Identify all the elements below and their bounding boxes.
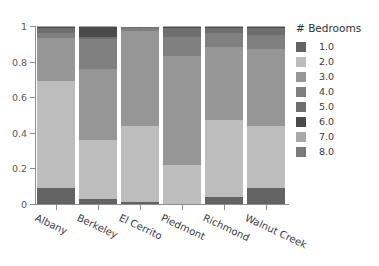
bar-el-cerrito[interactable] xyxy=(121,26,159,204)
bar-segment[interactable] xyxy=(121,126,159,203)
x-tick-mark xyxy=(98,205,99,210)
bar-segment[interactable] xyxy=(247,28,285,35)
bar-segment[interactable] xyxy=(121,202,159,204)
bar-segment[interactable] xyxy=(247,49,285,126)
legend-swatch-icon xyxy=(296,57,306,67)
x-tick-mark xyxy=(56,205,57,210)
x-tick-label: Richmond xyxy=(201,212,251,243)
y-tick-label: 0 xyxy=(21,199,27,210)
legend-item[interactable]: 8.0 xyxy=(296,144,378,159)
y-tick-mark xyxy=(30,204,35,205)
legend-swatch-icon xyxy=(296,102,306,112)
legend-label: 8.0 xyxy=(319,146,334,157)
legend-label: 4.0 xyxy=(319,86,334,97)
legend-items: 1.02.03.04.05.06.07.08.0 xyxy=(296,39,378,159)
legend-swatch-icon xyxy=(296,72,306,82)
legend-label: 7.0 xyxy=(319,131,334,142)
bar-segment[interactable] xyxy=(37,188,75,204)
x-tick-mark xyxy=(266,205,267,210)
legend-label: 6.0 xyxy=(319,116,334,127)
bar-segment[interactable] xyxy=(247,126,285,188)
bar-albany[interactable] xyxy=(37,26,75,204)
y-tick-label: 0.4 xyxy=(12,127,27,138)
bar-segment[interactable] xyxy=(163,37,201,57)
legend-item[interactable]: 7.0 xyxy=(296,129,378,144)
plot-area xyxy=(35,26,287,204)
bar-segment[interactable] xyxy=(79,27,117,37)
legend-title: # Bedrooms xyxy=(296,22,378,34)
legend-swatch-icon xyxy=(296,147,306,157)
bar-segment[interactable] xyxy=(37,38,75,81)
legend-label: 3.0 xyxy=(319,71,334,82)
x-tick-mark xyxy=(182,205,183,210)
y-tick-label: 0.8 xyxy=(12,56,27,67)
y-tick-label: 0.6 xyxy=(12,92,27,103)
chart-screenshot: 00.20.40.60.81 AlbanyBerkeleyEl CerritoP… xyxy=(0,0,379,266)
legend-label: 2.0 xyxy=(319,56,334,67)
legend-item[interactable]: 1.0 xyxy=(296,39,378,54)
bar-berkeley[interactable] xyxy=(79,26,117,204)
bar-segment[interactable] xyxy=(163,165,201,204)
x-tick-label: Berkeley xyxy=(75,212,119,240)
bar-segment[interactable] xyxy=(79,199,117,204)
x-tick-label: Walnut Creek xyxy=(243,212,308,250)
x-tick-label: El Cerrito xyxy=(117,212,164,242)
bar-richmond[interactable] xyxy=(205,26,243,204)
legend: # Bedrooms 1.02.03.04.05.06.07.08.0 xyxy=(296,22,378,159)
legend-label: 1.0 xyxy=(319,41,334,52)
bar-segment[interactable] xyxy=(205,197,243,204)
legend-item[interactable]: 2.0 xyxy=(296,54,378,69)
bar-segment[interactable] xyxy=(79,69,117,140)
bar-segment[interactable] xyxy=(205,120,243,197)
legend-item[interactable]: 5.0 xyxy=(296,99,378,114)
y-tick-label: 0.2 xyxy=(12,163,27,174)
bar-segment[interactable] xyxy=(205,33,243,47)
legend-swatch-icon xyxy=(296,117,306,127)
legend-item[interactable]: 6.0 xyxy=(296,114,378,129)
bar-segment[interactable] xyxy=(79,39,117,69)
bar-piedmont[interactable] xyxy=(163,26,201,204)
bar-segment[interactable] xyxy=(247,35,285,49)
bar-walnut-creek[interactable] xyxy=(247,26,285,204)
legend-swatch-icon xyxy=(296,87,306,97)
x-tick-label: Albany xyxy=(33,212,69,236)
x-tick-mark xyxy=(140,205,141,210)
x-axis-line xyxy=(35,204,289,205)
legend-item[interactable]: 4.0 xyxy=(296,84,378,99)
bar-segment[interactable] xyxy=(79,140,117,199)
x-tick-label: Piedmont xyxy=(159,212,206,242)
legend-swatch-icon xyxy=(296,132,306,142)
legend-label: 5.0 xyxy=(319,101,334,112)
bar-segment[interactable] xyxy=(205,47,243,120)
legend-item[interactable]: 3.0 xyxy=(296,69,378,84)
bar-segment[interactable] xyxy=(247,188,285,204)
y-tick-label: 1 xyxy=(21,21,27,32)
bar-segment[interactable] xyxy=(37,81,75,188)
bar-segment[interactable] xyxy=(163,56,201,165)
bar-segment[interactable] xyxy=(121,31,159,125)
legend-swatch-icon xyxy=(296,42,306,52)
bar-segment[interactable] xyxy=(163,28,201,37)
x-tick-mark xyxy=(224,205,225,210)
